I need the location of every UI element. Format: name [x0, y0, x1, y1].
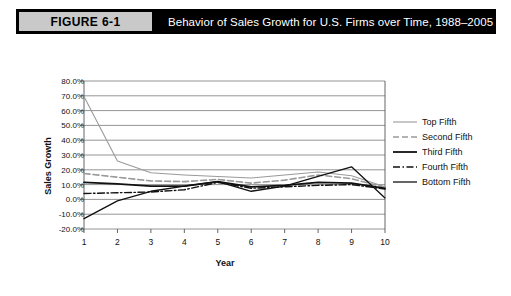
figure-title: Behavior of Sales Growth for U.S. Firms …	[168, 16, 493, 28]
legend-label: Third Fifth	[422, 147, 463, 157]
legend-line-swatch	[392, 162, 418, 172]
legend-item[interactable]: Bottom Fifth	[392, 174, 510, 189]
legend-line-swatch	[392, 132, 418, 142]
series-line-top-fifth	[84, 97, 385, 187]
figure-number-badge: FIGURE 6-1	[19, 12, 152, 31]
chart-area: Sales Growth Year 80.0%70.0%60.0%50.0%40…	[0, 48, 511, 288]
legend-label: Fourth Fifth	[422, 162, 468, 172]
legend-item[interactable]: Third Fifth	[392, 144, 510, 159]
legend-item[interactable]: Second Fifth	[392, 129, 510, 144]
figure-header: FIGURE 6-1 Behavior of Sales Growth for …	[16, 9, 496, 34]
legend-item[interactable]: Fourth Fifth	[392, 159, 510, 174]
legend-label: Bottom Fifth	[422, 177, 471, 187]
legend-label: Second Fifth	[422, 132, 473, 142]
chart-legend: Top FifthSecond FifthThird FifthFourth F…	[392, 114, 510, 189]
figure-container: FIGURE 6-1 Behavior of Sales Growth for …	[0, 0, 511, 296]
legend-line-swatch	[392, 177, 418, 187]
legend-item[interactable]: Top Fifth	[392, 114, 510, 129]
legend-label: Top Fifth	[422, 117, 457, 127]
legend-line-swatch	[392, 117, 418, 127]
legend-line-swatch	[392, 147, 418, 157]
